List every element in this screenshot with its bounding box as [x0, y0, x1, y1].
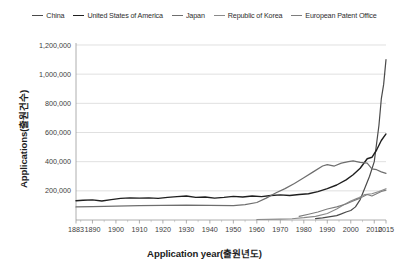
chart-svg: 200,000400,000600,000800,0001,000,0001,2… [0, 0, 409, 271]
axis-lines [76, 43, 386, 220]
gridlines [76, 45, 386, 191]
x-tick-label: 2000 [343, 225, 359, 234]
data-series [76, 60, 386, 220]
y-axis-title: Applications(출원건수) [16, 64, 30, 214]
y-tick-label: 600,000 [45, 128, 71, 137]
x-tick-label: 1930 [178, 225, 194, 234]
x-tick-label: 1980 [296, 225, 312, 234]
x-tick-label: 1890 [84, 225, 100, 234]
x-tick-label: 1940 [202, 225, 218, 234]
y-tick-label: 1,000,000 [39, 70, 71, 79]
x-tick-label: 2015 [378, 225, 394, 234]
x-axis-title: Application year(출원년도) [0, 246, 409, 260]
x-tick-marks [76, 220, 386, 224]
x-tick-label: 1960 [249, 225, 265, 234]
x-tick-label: 1970 [272, 225, 288, 234]
x-tick-label: 1883 [68, 225, 84, 234]
chart-figure: ChinaUnited States of AmericaJapanRepubl… [0, 0, 409, 271]
y-tick-label: 400,000 [45, 157, 71, 166]
x-tick-label: 1920 [155, 225, 171, 234]
series-line [299, 190, 386, 216]
y-tick-label: 800,000 [45, 99, 71, 108]
x-tick-label: 1900 [108, 225, 124, 234]
x-tick-label: 1950 [225, 225, 241, 234]
y-tick-label: 1,200,000 [39, 41, 71, 50]
x-tick-labels: 1883189019001910192019301940195019601970… [68, 225, 394, 234]
y-tick-label: 200,000 [45, 186, 71, 195]
y-tick-labels: 200,000400,000600,000800,0001,000,0001,2… [39, 41, 71, 196]
x-tick-label: 1990 [319, 225, 335, 234]
x-tick-label: 1910 [131, 225, 147, 234]
plot-area: 200,000400,000600,000800,0001,000,0001,2… [0, 0, 409, 271]
